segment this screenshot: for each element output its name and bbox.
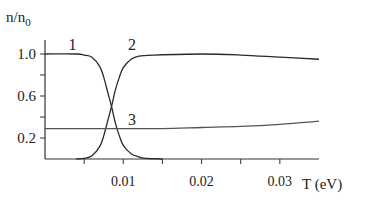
- axes: [40, 40, 319, 164]
- x-axis-label: T (eV): [302, 176, 342, 193]
- x-tick-label: 0.02: [189, 174, 214, 189]
- y-axis-label: n/n0: [6, 9, 31, 28]
- curve-label-2: 2: [128, 36, 136, 53]
- series-1-line: [45, 54, 162, 159]
- curve-label-1: 1: [68, 36, 76, 53]
- series-group: [45, 54, 319, 159]
- chart: 0.010.020.031.00.60.2123 n/n0 T (eV): [0, 0, 373, 201]
- labels-group: 0.010.020.031.00.60.2123: [17, 36, 292, 190]
- x-tick-label: 0.01: [111, 174, 136, 189]
- curve-label-3: 3: [128, 111, 136, 128]
- x-tick-label: 0.03: [268, 174, 293, 189]
- series-3-line: [45, 121, 319, 128]
- y-tick-label: 0.2: [17, 130, 36, 146]
- series-2-line: [76, 54, 319, 159]
- y-tick-label: 1.0: [17, 46, 36, 62]
- y-tick-label: 0.6: [17, 88, 36, 104]
